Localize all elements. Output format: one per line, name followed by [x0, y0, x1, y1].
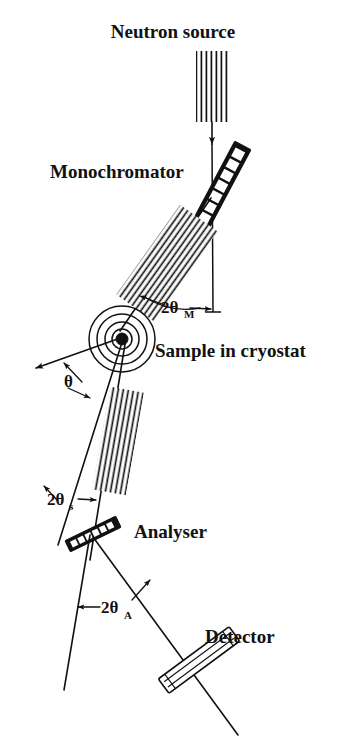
- analyser-straight-through-line: [64, 535, 90, 690]
- two-theta-a-arrow-right: [132, 580, 150, 600]
- sample-reference-arm: [36, 336, 126, 368]
- theta-symbol: θ: [64, 372, 73, 391]
- two-theta-s-subscript: s: [69, 500, 74, 512]
- sample-in-cryostat-label: Sample in cryostat: [155, 340, 307, 361]
- two-theta-a-symbol: 2θ: [101, 598, 119, 617]
- two-theta-s-symbol: 2θ: [47, 490, 65, 509]
- source-collimator-blades: [196, 51, 230, 122]
- source-collimator: [196, 51, 230, 122]
- analyser-label: Analyser: [134, 521, 207, 542]
- monochromator-label: Monochromator: [50, 161, 184, 182]
- diagram-canvas: Neutron source Monochromator: [0, 0, 346, 750]
- two-theta-a-subscript: A: [124, 609, 132, 621]
- detector-label: Detector: [205, 626, 275, 647]
- sample-analyser-collimator: [92, 387, 144, 495]
- neutron-source-label: Neutron source: [111, 21, 235, 42]
- theta-annotation: θ: [64, 363, 90, 398]
- two-theta-m-subscript: M: [184, 308, 195, 320]
- collimator-3-blades: [92, 387, 144, 495]
- two-theta-m-symbol: 2θ: [161, 298, 179, 317]
- two-theta-s-annotation: 2θ s: [44, 486, 96, 512]
- spectrometer-diagram: Neutron source Monochromator: [0, 0, 346, 750]
- two-theta-s-arrow-right: [78, 499, 96, 500]
